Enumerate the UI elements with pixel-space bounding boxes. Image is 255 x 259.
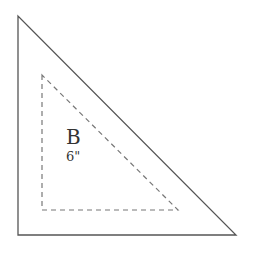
piece-label: B: [66, 125, 81, 149]
inner-dashed-triangle: [42, 75, 178, 210]
dimension-label: 6": [66, 149, 80, 164]
pattern-diagram: [0, 0, 255, 259]
outer-triangle: [18, 16, 236, 235]
